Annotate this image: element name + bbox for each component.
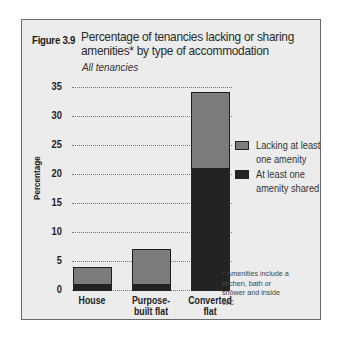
figure-title: Percentage of tenancies lacking or shari… <box>81 30 297 57</box>
bar-segment-lacking <box>191 92 230 169</box>
legend-line: one amenity <box>256 152 326 166</box>
bar-segment-shared <box>132 285 171 291</box>
y-tick-35: 35 <box>43 80 62 92</box>
legend-swatch-lacking <box>235 141 249 150</box>
figure-number: Figure 3.9 <box>32 34 75 46</box>
x-label-line: Purpose- <box>125 295 178 306</box>
figure-subtitle: All tenancies <box>82 61 138 73</box>
figure-frame: Figure 3.9 Percentage of tenancies lacki… <box>21 19 321 320</box>
legend-label: Lacking at least one amenity <box>256 138 326 166</box>
legend-swatch-shared <box>235 170 249 179</box>
bar-segment-lacking <box>73 267 112 285</box>
y-tick-20: 20 <box>43 167 62 179</box>
y-tick-15: 15 <box>43 196 62 208</box>
bar-segment-lacking <box>132 249 171 285</box>
bar-segment-shared <box>73 285 112 291</box>
x-label-line: House <box>66 295 119 306</box>
y-axis-label: Percentage <box>32 156 42 200</box>
y-tick-10: 10 <box>43 225 62 237</box>
x-label-line: flat <box>184 306 237 317</box>
bar-purpose-built-flat <box>132 249 171 291</box>
x-label-line: built flat <box>125 306 178 317</box>
footnote: * Amenities include a kitchen, bath or s… <box>222 269 294 307</box>
gridline-35 <box>72 87 232 88</box>
bar-converted-flat <box>191 92 230 291</box>
x-label-house: House <box>66 295 119 306</box>
bar-house <box>73 267 112 291</box>
y-tick-25: 25 <box>43 138 62 150</box>
y-tick-0: 0 <box>43 283 62 295</box>
legend-line: Lacking at least <box>256 138 326 152</box>
legend-line: amenity shared <box>256 181 326 195</box>
y-tick-5: 5 <box>43 254 62 266</box>
y-tick-30: 30 <box>43 109 62 121</box>
legend-label: At least one amenity shared <box>256 167 326 195</box>
legend-line: At least one <box>256 167 326 181</box>
x-label-purpose-built-flat: Purpose- built flat <box>125 295 178 317</box>
